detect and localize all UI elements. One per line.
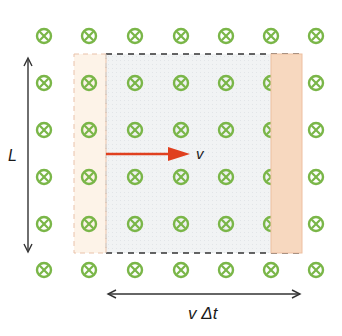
field-into-page-icon [128,29,142,43]
field-into-page-icon [82,263,96,277]
field-into-page-icon [37,29,51,43]
field-into-page-icon [309,76,323,90]
field-into-page-icon [128,263,142,277]
field-into-page-icon [174,29,188,43]
field-into-page-icon [37,263,51,277]
length-label: L [8,148,17,164]
moving-bar [271,54,302,253]
field-into-page-icon [37,76,51,90]
field-into-page-icon [309,170,323,184]
field-into-page-icon [219,29,233,43]
displacement-label: v Δt [188,305,217,322]
field-into-page-icon [264,29,278,43]
field-into-page-icon [264,263,278,277]
field-into-page-icon [219,263,233,277]
field-into-page-icon [309,263,323,277]
field-into-page-icon [37,123,51,137]
field-into-page-icon [309,123,323,137]
field-into-page-icon [309,217,323,231]
field-into-page-icon [309,29,323,43]
field-into-page-icon [37,170,51,184]
velocity-label: v [196,146,204,161]
motional-emf-diagram [0,0,342,336]
field-into-page-icon [174,263,188,277]
field-into-page-icon [82,29,96,43]
field-into-page-icon [37,217,51,231]
